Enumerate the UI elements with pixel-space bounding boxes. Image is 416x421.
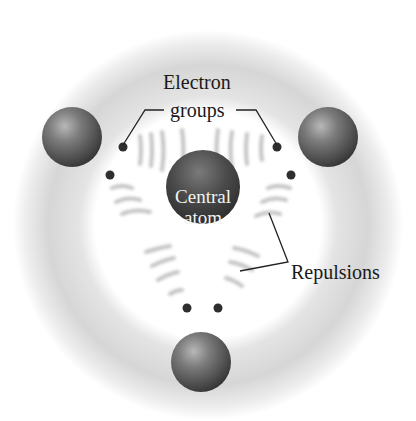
electron-group-diagram: Electron groups Central atom Repulsions	[0, 0, 416, 421]
electron-dot	[214, 304, 223, 313]
central-atom-label-line2: atom	[166, 208, 240, 227]
repulsions-label: Repulsions	[291, 262, 380, 282]
electron-groups-label-line2: groups	[170, 100, 224, 120]
outer-atom-right	[298, 107, 358, 167]
electron-dot	[183, 304, 192, 313]
outer-atom-bottom	[171, 332, 231, 392]
electron-groups-label-line1: Electron	[163, 72, 231, 92]
electron-dot	[287, 171, 296, 180]
electron-dot	[106, 171, 115, 180]
outer-atom-left	[42, 107, 102, 167]
central-atom-label-line1: Central	[166, 187, 240, 206]
